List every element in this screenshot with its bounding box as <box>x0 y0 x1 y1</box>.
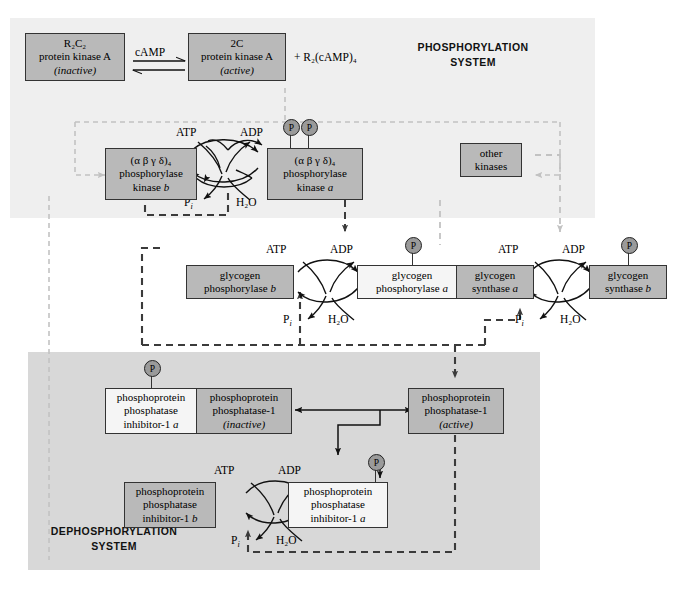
node-pp1-active-line1: phosphoprotein <box>422 391 490 404</box>
node-gsb-line2: synthase b <box>605 282 651 295</box>
node-pka-inactive[interactable]: R₂C₂ protein kinase A (inactive) <box>25 33 125 81</box>
adp-label-inh-cycle: ADP <box>278 464 301 476</box>
node-pp1-active[interactable]: phosphoprotein phosphatase-1 (active) <box>408 388 504 434</box>
node-inh1a-top-line3: inhibitor-1 a <box>123 418 178 431</box>
node-inh1b-line2: phosphatase <box>143 498 197 511</box>
phosphate-circle-inh1a-top: P <box>144 360 161 377</box>
node-pka-active-line2: protein kinase A <box>201 50 273 63</box>
node-glycogen-phosphorylase-b[interactable]: glycogen phosphorylase b <box>186 265 294 299</box>
pi-label-gp-cycle: Pi <box>283 313 292 328</box>
gs-cycle-reverse-arc <box>530 288 590 302</box>
node-gpb-line1: glycogen <box>220 269 260 282</box>
node-inh1a-bot-line2: phosphatase <box>311 498 365 511</box>
dephosphorylation-panel-label: DEPHOSPHORYLATION SYSTEM <box>34 524 194 554</box>
node-pp1-active-line3: (active) <box>439 418 473 431</box>
phosphate-circle-pk-a-1: P <box>283 119 300 136</box>
node-glycogen-synthase-b[interactable]: glycogen synthase b <box>589 265 667 299</box>
node-gpa-line1: glycogen <box>392 269 432 282</box>
node-gpb-line2: phosphorylase b <box>204 282 276 295</box>
adp-label-gs-cycle: ADP <box>562 243 585 255</box>
node-other-kinases-line1: other <box>480 147 503 160</box>
phosphate-circle-inh1a-bottom: P <box>368 454 385 471</box>
node-inh1a-bot-line1: phosphoprotein <box>304 485 372 498</box>
node-inh1b-line3: inhibitor-1 b <box>142 512 197 525</box>
atp-label-kinase-cycle: ATP <box>176 126 196 138</box>
node-pkb-line3: kinase b <box>133 181 169 194</box>
node-phosphorylase-kinase-b[interactable]: (α β γ δ)₄ phosphorylase kinase b <box>105 148 197 200</box>
node-gsa-line2: synthase a <box>472 282 518 295</box>
phosphate-stem-gsb <box>628 252 629 266</box>
node-pp1-inactive[interactable]: phosphoprotein phosphatase-1 (inactive) <box>196 388 292 434</box>
phosphate-circle-gsb: P <box>621 237 638 254</box>
h2o-label-inh-cycle: H₂O <box>276 534 297 546</box>
node-pka2-line3: kinase a <box>297 181 333 194</box>
node-pkb-line1: (α β γ δ)₄ <box>131 154 172 167</box>
node-pka-inactive-line1: R₂C₂ <box>64 37 86 50</box>
node-pp1-active-line2: phosphatase-1 <box>425 404 488 417</box>
node-pka2-line2: phosphorylase <box>283 167 347 180</box>
gs-cycle-forward-arc <box>530 260 590 272</box>
h2o-label-gp-cycle: H₂O <box>328 313 349 325</box>
gp-cycle-top-left-in <box>303 262 326 294</box>
node-inhibitor-1a-top[interactable]: phosphoprotein phosphatase inhibitor-1 a <box>105 388 197 434</box>
node-pka2-line1: (α β γ δ)₄ <box>295 154 336 167</box>
node-gsa-line1: glycogen <box>475 269 515 282</box>
node-other-kinases[interactable]: other kinases <box>460 143 522 177</box>
gs-cycle-bottom-left-out <box>540 296 558 319</box>
phosphate-circle-gpa: P <box>405 237 422 254</box>
node-pka-active-line1: 2C <box>231 37 244 50</box>
node-phosphorylase-kinase-a[interactable]: (α β γ δ)₄ phosphorylase kinase a <box>267 148 363 200</box>
phosphorylation-panel-label: PHOSPHORYLATION SYSTEM <box>398 40 548 70</box>
phosphate-stem-inh1a-top <box>151 375 152 389</box>
node-pp1-inactive-line3: (inactive) <box>223 418 265 431</box>
phosphate-circle-pk-a-2: P <box>301 119 318 136</box>
node-pka-active-line3: (active) <box>220 64 254 77</box>
h2o-label-gs-cycle: H₂O <box>560 313 581 325</box>
diagram-canvas: PHOSPHORYLATION SYSTEM DEPHOSPHORYLATION… <box>0 0 675 605</box>
gs-cycle-top-left-in <box>535 262 558 294</box>
phosphate-stem-inh1a-bottom <box>375 469 376 483</box>
adp-label-gp-cycle: ADP <box>330 243 353 255</box>
atp-label-gs-cycle: ATP <box>498 243 518 255</box>
node-glycogen-synthase-a[interactable]: glycogen synthase a <box>456 265 534 299</box>
node-inh1a-top-line1: phosphoprotein <box>117 391 185 404</box>
camp-label: cAMP <box>135 46 165 58</box>
atp-label-inh-cycle: ATP <box>214 464 234 476</box>
node-gpa-line2: phosphorylase a <box>376 282 448 295</box>
atp-label-gp-cycle: ATP <box>266 243 286 255</box>
phosphate-stem-gpa <box>412 252 413 266</box>
node-gsb-line1: glycogen <box>608 269 648 282</box>
node-pka-inactive-line2: protein kinase A <box>39 50 111 63</box>
pi-label-gs-cycle: Pi <box>515 313 524 328</box>
gs-cycle-top-right-out <box>562 262 586 292</box>
node-inhibitor-1b[interactable]: phosphoprotein phosphatase inhibitor-1 b <box>124 482 216 528</box>
gp-cycle-top-right-out <box>330 262 354 292</box>
adp-label-kinase-cycle: ADP <box>240 126 263 138</box>
phosphate-stem-pk-a-2 <box>308 134 309 149</box>
h2o-label-kinase-cycle: H₂O <box>236 196 257 208</box>
node-pkb-line2: phosphorylase <box>119 167 183 180</box>
node-glycogen-phosphorylase-a[interactable]: glycogen phosphorylase a <box>357 265 467 299</box>
node-pka-active[interactable]: 2C protein kinase A (active) <box>188 33 286 81</box>
r2camp4-label: + R₂(cAMP)₄ <box>294 51 357 63</box>
node-other-kinases-line2: kinases <box>475 160 507 173</box>
node-inh1a-top-line2: phosphatase <box>124 404 178 417</box>
node-inhibitor-1a-bottom[interactable]: phosphoprotein phosphatase inhibitor-1 a <box>288 482 388 528</box>
node-inh1a-bot-line3: inhibitor-1 a <box>310 512 365 525</box>
node-inh1b-line1: phosphoprotein <box>136 485 204 498</box>
phosphate-stem-pk-a-1 <box>290 134 291 149</box>
gp-cycle-reverse-arc <box>298 288 358 302</box>
pi-label-inh-cycle: Pi <box>231 534 240 549</box>
gp-cycle-forward-arc <box>298 260 358 272</box>
node-pp1-inactive-line2: phosphatase-1 <box>213 404 276 417</box>
node-pp1-inactive-line1: phosphoprotein <box>210 391 278 404</box>
node-pka-inactive-line3: (inactive) <box>54 64 96 77</box>
gp-cycle-bottom-left-out <box>308 296 326 319</box>
